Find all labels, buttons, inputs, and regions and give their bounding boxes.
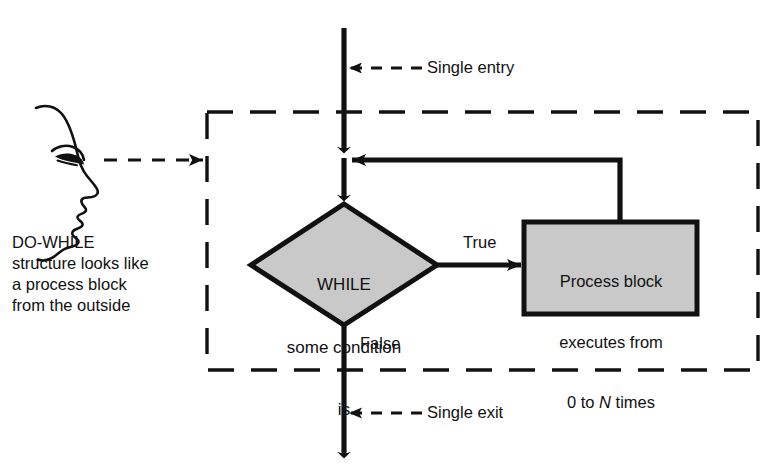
process-line-1: Process block <box>525 271 697 291</box>
caption-line-1: DO-WHILE <box>12 232 197 253</box>
single-entry-label: Single entry <box>427 58 514 77</box>
process-line-3: 0 to N times <box>525 392 697 412</box>
process-block-label: Process block executes from 0 to N times <box>525 231 697 452</box>
process-line-3-prefix: 0 to <box>567 393 599 411</box>
caption-line-4: from the outside <box>12 295 197 316</box>
decision-diamond-label: WHILE some condition is <box>250 234 438 462</box>
decision-line-2: some condition <box>250 338 438 359</box>
decision-line-3: is <box>250 400 438 421</box>
feedback-loop-flowline <box>352 160 620 222</box>
caption-line-3: a process block <box>12 274 197 295</box>
caption-line-2: structure looks like <box>12 253 197 274</box>
caption-text-block: DO-WHILE structure looks like a process … <box>12 232 197 316</box>
false-branch-label: False <box>360 334 400 353</box>
true-branch-label: True <box>463 233 496 252</box>
diagram-canvas: WHILE some condition is Process block ex… <box>0 0 784 470</box>
process-line-3-suffix: times <box>611 393 655 411</box>
decision-line-1: WHILE <box>250 275 438 296</box>
single-exit-label: Single exit <box>427 403 503 422</box>
process-line-2: executes from <box>525 332 697 352</box>
process-line-3-variable: N <box>599 393 611 411</box>
